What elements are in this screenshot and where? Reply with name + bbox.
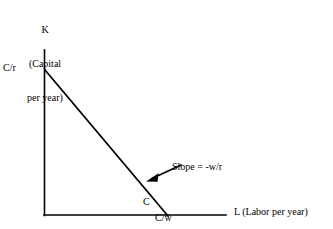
y-axis-title-line-3: per year) (6, 92, 84, 103)
y-axis-title: K (Capital per year) (6, 2, 84, 125)
y-axis-title-line-1: K (6, 24, 84, 35)
point-c-label: C (143, 196, 150, 207)
isocost-chart: K (Capital per year) C/r C/w C Slope = -… (0, 0, 333, 229)
slope-annotation-label: Slope = -w/r (172, 161, 222, 172)
y-intercept-label: C/r (3, 62, 16, 73)
y-axis-title-line-2: (Capital (6, 58, 84, 69)
x-axis-title: L (Labor per year) (234, 206, 308, 217)
x-intercept-label: C/w (155, 212, 172, 223)
